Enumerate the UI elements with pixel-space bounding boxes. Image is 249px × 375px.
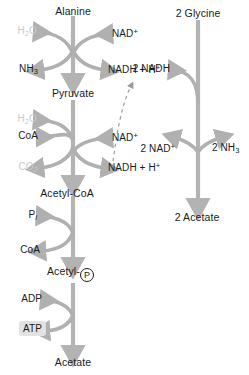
cofactor-water-in: H2O [18,26,38,38]
step-acetyl-coa-to-acetyl-phosphate-curves [40,216,73,251]
cofactor-nad-plus-in: NAD+ [112,28,138,39]
product-co2-out: CO2 [19,162,38,174]
metabolite-acetate-2: 2 Acetate [175,212,220,223]
product-atp-out: ATP [19,323,46,333]
metabolite-acetyl-phosphate: Acetyl-P [47,266,94,282]
reducing-equivalent-dashed-arrow [112,86,131,168]
cofactor-nad-plus-in-2: NAD+ [112,132,138,143]
metabolite-acetate: Acetate [55,357,91,368]
glycine-nadh-input-curve [172,70,198,104]
phosphate-circle-icon: P [80,268,95,283]
cofactor-adp-in: ADP [21,294,42,304]
product-nadh-out-2: NADH + H+ [108,162,160,173]
product-ammonia-out-right: 2 NH3 [212,143,239,155]
pathway-arrows-canvas [0,0,249,375]
cofactor-coa-in: CoA [18,131,38,141]
cofactor-water-in-2: H2O [18,114,38,126]
atp-highlight-chip: ATP [19,321,46,336]
metabolite-pyruvate: Pyruvate [52,88,94,99]
product-coa-out: CoA [20,245,40,255]
step-acetyl-phosphate-to-acetate-curves [44,300,73,331]
product-ammonia-out: NH3 [19,64,38,76]
metabolite-alanine: Alanine [55,6,91,17]
pathway-diagram: Alanine H2O NAD+ NH3 NADH + H+ Pyruvate … [0,0,249,375]
cofactor-phosphate-in: Pi [28,210,37,222]
cofactor-nadh-in-right: 2 NADH [133,64,170,74]
metabolite-glycine: 2 Glycine [176,8,221,19]
product-nad-plus-out-right: 2 NAD+ [141,143,175,154]
metabolite-acetyl-coa: Acetyl-CoA [40,188,94,199]
